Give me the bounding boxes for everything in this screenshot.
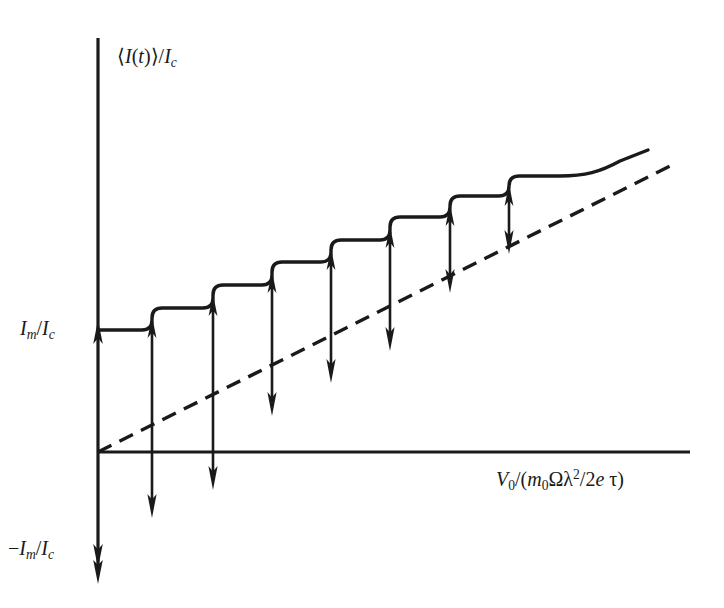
x-label-m: m <box>527 468 541 490</box>
tick-im-ic-subscript: c <box>49 327 55 342</box>
step-drop-arrow-1 <box>147 316 156 518</box>
y-label-close-angle: ⟩ <box>151 45 159 67</box>
step-drop-arrow-6 <box>445 204 454 293</box>
step-drop-arrow-3 <box>267 271 276 416</box>
tick-negim-ic: I <box>41 537 48 559</box>
y-label-i: I <box>125 45 132 67</box>
tick-negim-minus: − <box>8 537 19 559</box>
x-label-v-subscript: 0 <box>508 478 515 493</box>
x-label-slash-open: /( <box>515 468 527 490</box>
x-label-paren-close: ) <box>617 468 624 490</box>
x-label-omega: Ω <box>548 468 563 490</box>
x-label-e: e <box>595 468 604 490</box>
y-tick-label-neg-im-over-ic: −Im/Ic <box>8 538 54 562</box>
step-drop-arrow-4 <box>326 248 335 383</box>
tick-negim-subscript: m <box>26 547 36 562</box>
tick-im-ic: I <box>42 317 49 339</box>
tick-im-i: I <box>20 317 27 339</box>
figure-root: ⟨I(t)⟩/Ic V0/(m0Ωλ2/2e τ) Im/Ic −Im/Ic <box>0 0 724 608</box>
y-label-paren-close: ) <box>144 45 151 67</box>
staircase-curve <box>98 150 648 330</box>
y-label-open-angle: ⟨ <box>117 45 125 67</box>
x-axis-label: V0/(m0Ωλ2/2e τ) <box>496 468 624 492</box>
x-label-v: V <box>496 468 508 490</box>
y-label-ic-subscript: c <box>171 55 177 70</box>
y-tick-label-im-over-ic: Im/Ic <box>20 318 55 342</box>
plot-canvas <box>0 0 724 608</box>
x-label-mid-slash: /2 <box>580 468 596 490</box>
tick-im-subscript: m <box>27 327 37 342</box>
x-label-lambda: λ <box>563 468 573 490</box>
tick-negim-i: I <box>19 537 26 559</box>
tick-negim-ic-subscript: c <box>48 547 54 562</box>
y-label-ic: I <box>164 45 171 67</box>
step-drop-arrow-5 <box>385 226 394 351</box>
y-axis-label: ⟨I(t)⟩/Ic <box>117 46 177 70</box>
axis-group <box>93 38 690 584</box>
x-label-lambda-exponent: 2 <box>573 467 580 482</box>
